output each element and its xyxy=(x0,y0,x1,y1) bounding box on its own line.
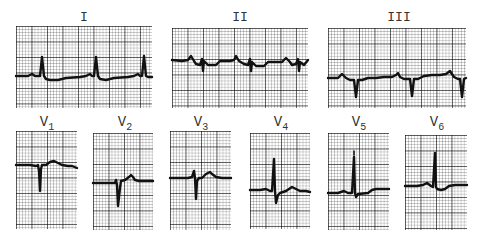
ecg-strip-lead-I xyxy=(16,26,152,108)
ecg-strip-lead-V5 xyxy=(328,133,389,230)
ecg-trace-lead-II xyxy=(172,28,308,108)
lead-label-V2: V2 xyxy=(114,114,136,133)
ecg-strip-lead-V1 xyxy=(16,131,77,229)
ecg-trace-lead-I xyxy=(16,26,152,108)
ecg-trace-lead-V1 xyxy=(16,131,77,229)
lead-label-III: III xyxy=(384,10,414,25)
ecg-trace-lead-V5 xyxy=(328,133,389,230)
ecg-trace-lead-V2 xyxy=(93,133,153,230)
ecg-trace-lead-V6 xyxy=(405,135,467,230)
ecg-strip-lead-V2 xyxy=(93,133,153,230)
ecg-strip-lead-V3 xyxy=(170,131,231,230)
lead-label-II: II xyxy=(228,10,252,25)
ecg-trace-lead-V4 xyxy=(250,133,310,229)
ecg-strip-lead-II xyxy=(172,28,308,108)
lead-label-V1: V1 xyxy=(36,114,58,133)
ecg-strip-lead-III xyxy=(328,28,466,108)
ecg-trace-lead-III xyxy=(328,28,466,108)
ecg-trace-lead-V3 xyxy=(170,131,231,230)
lead-label-V4: V4 xyxy=(270,114,292,133)
ecg-strip-lead-V6 xyxy=(405,135,467,230)
ecg-strip-lead-V4 xyxy=(250,133,310,229)
lead-label-I: I xyxy=(74,10,94,25)
lead-label-V5: V5 xyxy=(348,114,370,133)
lead-label-V3: V3 xyxy=(190,114,212,133)
lead-label-V6: V6 xyxy=(426,114,448,133)
